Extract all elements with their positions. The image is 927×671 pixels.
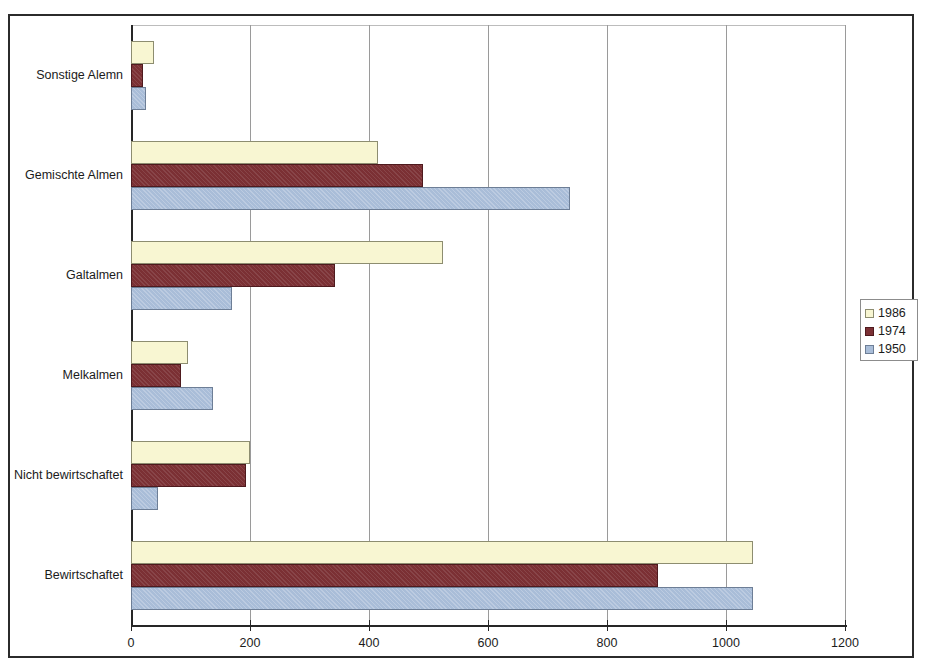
bar-1950-1 [131, 187, 570, 210]
bar-1950-2 [131, 287, 232, 310]
bar-1986-1 [131, 141, 378, 164]
x-tick-400 [369, 620, 370, 631]
x-tick-800 [607, 620, 608, 631]
x-tick-label-1200: 1200 [831, 636, 859, 650]
x-tick-label-0: 0 [128, 636, 135, 650]
chart-legend: 1986 1974 1950 [860, 299, 918, 361]
category-label-5: Bewirtschaftet [44, 568, 123, 582]
y-axis-line [131, 25, 133, 627]
bar-1974-5 [131, 564, 658, 587]
bar-1986-4 [131, 441, 250, 464]
bar-1950-5 [131, 587, 753, 610]
x-axis-line [131, 625, 847, 627]
legend-swatch-1950-icon [865, 345, 874, 354]
gridline-800 [607, 25, 608, 625]
gridline-600 [488, 25, 489, 625]
legend-swatch-1974-icon [865, 327, 874, 336]
gridline-200 [250, 25, 251, 625]
x-tick-label-1000: 1000 [712, 636, 740, 650]
legend-label-1974: 1974 [878, 324, 906, 338]
category-label-2: Galtalmen [66, 268, 123, 282]
x-tick-1000 [726, 620, 727, 631]
bar-1974-4 [131, 464, 246, 487]
category-label-1: Gemischte Almen [25, 168, 123, 182]
x-tick-600 [488, 620, 489, 631]
gridline-1000 [726, 25, 727, 625]
x-tick-label-200: 200 [240, 636, 261, 650]
bar-1974-2 [131, 264, 335, 287]
gridline-1200 [845, 25, 846, 625]
bar-1986-5 [131, 541, 753, 564]
legend-item-1986: 1986 [865, 304, 914, 322]
x-tick-0 [131, 620, 132, 631]
legend-label-1986: 1986 [878, 306, 906, 320]
bar-1986-2 [131, 241, 443, 264]
bar-1950-4 [131, 487, 158, 510]
bar-1974-0 [131, 64, 143, 87]
bar-1986-0 [131, 41, 154, 64]
legend-label-1950: 1950 [878, 342, 906, 356]
legend-item-1950: 1950 [865, 340, 914, 358]
x-tick-label-800: 800 [597, 636, 618, 650]
bar-1974-3 [131, 364, 181, 387]
bar-1974-1 [131, 164, 423, 187]
chart-figure: 020040060080010001200 Sonstige AlemnGemi… [0, 0, 927, 671]
category-label-4: Nicht bewirtschaftet [14, 468, 123, 482]
category-label-3: Melkalmen [63, 368, 123, 382]
gridline-400 [369, 25, 370, 625]
x-tick-200 [250, 620, 251, 631]
x-tick-label-400: 400 [359, 636, 380, 650]
bar-1950-0 [131, 87, 146, 110]
plot-area [131, 25, 845, 625]
bar-1986-3 [131, 341, 188, 364]
x-tick-label-600: 600 [478, 636, 499, 650]
bar-1950-3 [131, 387, 213, 410]
legend-item-1974: 1974 [865, 322, 914, 340]
y-axis-category-labels: Sonstige AlemnGemischte AlmenGaltalmenMe… [0, 0, 123, 671]
x-tick-1200 [845, 620, 846, 631]
legend-swatch-1986-icon [865, 309, 874, 318]
category-label-0: Sonstige Alemn [36, 68, 123, 82]
